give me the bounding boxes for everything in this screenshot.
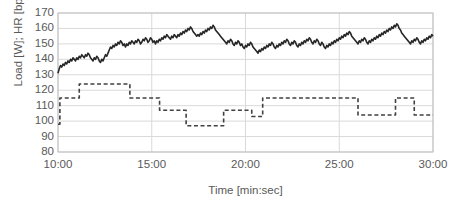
x-axis-tick-label: 25:00	[309, 158, 369, 170]
x-axis-tick-label: 10:00	[28, 158, 88, 170]
gridlines	[58, 13, 433, 152]
x-axis-tick-label: 20:00	[216, 158, 276, 170]
x-axis-tick-label: 30:00	[403, 158, 460, 170]
x-axis-title: Time [min:sec]	[58, 184, 433, 196]
x-axis-tick-label: 15:00	[122, 158, 182, 170]
plot-area	[0, 0, 460, 211]
chart-container: Load [W]; HR [bpm] 809010011012013014015…	[0, 0, 460, 211]
